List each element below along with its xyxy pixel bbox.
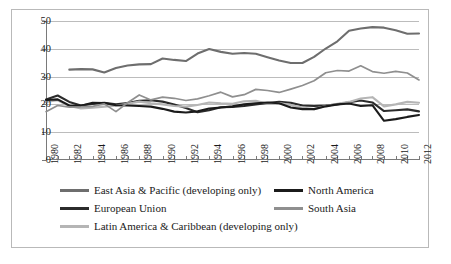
x-axis-tick-label: 1996 [237,144,247,164]
legend-swatch-icon [274,207,303,210]
legend-swatch-icon [60,225,89,228]
x-axis-tick-label: 1988 [143,144,153,164]
x-axis-tick-label: 2006 [353,144,363,164]
y-axis-tick-label: 10 [21,127,51,137]
y-axis-tick-label: 40 [21,44,51,54]
series-line [46,99,419,120]
y-axis-tick-label: 30 [21,72,51,82]
y-axis-tick-label: 0 [21,155,51,165]
legend-label: European Union [94,202,166,214]
x-axis-tick-label: 1992 [190,144,200,164]
chart-legend: East Asia & Pacific (developing only)Eur… [12,180,430,246]
chart-figure: 01020304050 1980198219841986198819901992… [11,9,429,248]
x-axis-tick-label: 1994 [213,144,223,164]
legend-item: East Asia & Pacific (developing only) [60,182,261,198]
legend-item: North America [274,182,374,198]
x-axis-tick-label: 1998 [260,144,270,164]
x-axis-tick-label: 1984 [97,144,107,164]
x-axis-tick-label: 2000 [283,144,293,164]
legend-swatch-icon [274,189,303,192]
series-lines [46,21,419,160]
x-axis-tick-label: 2002 [306,144,316,164]
plot-canvas [46,21,419,160]
y-axis-tick-label: 50 [21,16,51,26]
x-axis-tick-label: 1982 [73,144,83,164]
x-tick [419,156,420,160]
x-axis-tick-label: 1980 [50,144,60,164]
legend-swatch-icon [60,189,89,192]
legend-label: North America [308,184,374,196]
x-axis-tick-label: 1986 [120,144,130,164]
legend-swatch-icon [60,207,89,210]
legend-item: European Union [60,200,166,216]
legend-item: Latin America & Caribbean (developing on… [60,218,298,234]
legend-label: East Asia & Pacific (developing only) [94,184,261,196]
plot-area: 01020304050 1980198219841986198819901992… [12,10,430,176]
legend-item: South Asia [274,200,356,216]
series-line [69,27,419,72]
legend-label: Latin America & Caribbean (developing on… [94,220,298,232]
x-axis-tick-label: 2010 [400,144,410,164]
legend-label: South Asia [308,202,356,214]
x-axis-tick-label: 2004 [330,144,340,164]
x-axis-tick-label: 2012 [423,144,433,164]
x-axis-tick-label: 2008 [376,144,386,164]
y-axis-tick-label: 20 [21,99,51,109]
x-axis-tick-label: 1990 [167,144,177,164]
